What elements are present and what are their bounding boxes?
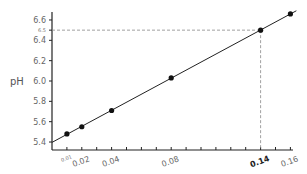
data-point: [288, 11, 293, 16]
data-point: [109, 108, 114, 113]
y-ref-label: 6.5: [38, 27, 46, 33]
x-tick-label: 0.16: [280, 154, 300, 169]
y-axis-title: pH: [10, 76, 24, 87]
data-point: [169, 75, 174, 80]
y-tick-label: 5.4: [33, 138, 46, 147]
x-tick-label: 0.08: [160, 154, 180, 169]
y-tick-label: 5.8: [33, 97, 46, 106]
y-tick-label: 5.6: [33, 118, 46, 127]
ph-line-chart: 5.45.65.86.06.26.46.66.5 0.010.020.040.0…: [0, 0, 307, 174]
reference-lines: [52, 30, 261, 150]
x-tick-label: 0.14: [249, 154, 271, 169]
y-axis: 5.45.65.86.06.26.46.66.5: [33, 12, 52, 150]
data-point: [258, 28, 263, 33]
x-axis: 0.010.020.040.080.140.16: [52, 147, 299, 169]
x-tick-label: 0.04: [101, 154, 121, 169]
y-tick-label: 6.6: [33, 16, 46, 25]
y-tick-label: 6.2: [33, 57, 46, 66]
y-tick-label: 6.4: [33, 36, 46, 45]
x-tick-label: 0.02: [71, 154, 91, 169]
data-point: [79, 124, 84, 129]
y-tick-label: 6.0: [33, 77, 46, 86]
data-point: [64, 131, 69, 136]
